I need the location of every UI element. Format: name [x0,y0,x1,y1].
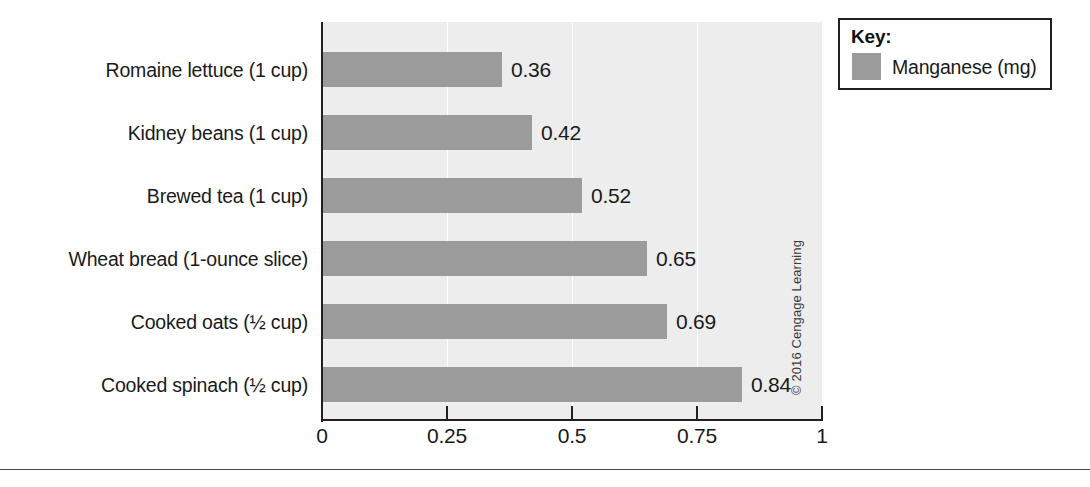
bar [322,304,667,339]
bar-value-label: 0.65 [656,247,696,271]
x-axis-tick-label: 0.5 [558,424,587,448]
x-axis-tick [571,406,573,420]
bar [322,52,502,87]
category-label: Romaine lettuce (1 cup) [0,59,308,82]
copyright-credit: © 2016 Cengage Learning [789,240,804,395]
category-label: Wheat bread (1-ounce slice) [0,248,308,271]
bar-value-label: 0.36 [511,58,551,82]
bar-chart-figure: 0.360.420.520.650.690.84 Romaine lettuce… [0,0,1090,487]
x-axis-tick-label: 0 [316,424,327,448]
category-label: Cooked oats (½ cup) [0,311,308,334]
bottom-divider [0,469,1090,470]
bar [322,178,582,213]
legend-swatch-manganese [852,53,881,80]
legend-label-manganese: Manganese (mg) [892,56,1037,79]
legend-key-box: Key: Manganese (mg) [838,18,1052,90]
x-axis-tick [696,406,698,420]
y-axis-line [321,22,323,422]
bar-value-label: 0.52 [591,184,631,208]
gridline [697,22,698,420]
category-label: Brewed tea (1 cup) [0,185,308,208]
bar [322,241,647,276]
gridline [572,22,573,420]
bar-value-label: 0.69 [676,310,716,334]
x-axis-tick-label: 1 [816,424,827,448]
category-label: Kidney beans (1 cup) [0,122,308,145]
x-axis-tick-label: 0.25 [427,424,467,448]
bar [322,367,742,402]
legend-title: Key: [851,26,891,48]
category-label: Cooked spinach (½ cup) [0,374,308,397]
x-axis-tick [446,406,448,420]
bar [322,115,532,150]
bar-value-label: 0.42 [541,121,581,145]
bar-value-label: 0.84 [751,373,791,397]
x-axis-tick [821,406,823,420]
x-axis-tick-label: 0.75 [677,424,717,448]
